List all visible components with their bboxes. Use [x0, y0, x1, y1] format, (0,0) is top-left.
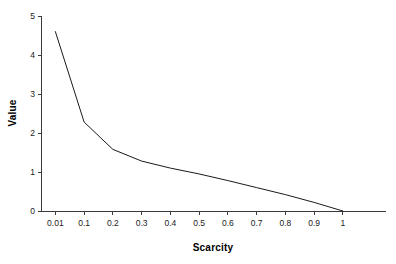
axis-lines: [41, 16, 386, 211]
x-axis-ticks: [55, 211, 343, 215]
x-axis-tick-label: 0.2: [107, 219, 119, 228]
x-axis-tick-label: 1: [341, 219, 346, 228]
data-series-line: [55, 32, 343, 211]
y-axis-tick-label: 5: [30, 12, 35, 21]
chart-container: 012345 0.010.10.20.30.40.50.60.70.80.91 …: [0, 0, 396, 264]
y-axis-tick-label: 1: [30, 168, 35, 177]
x-axis-tick-label: 0.01: [47, 219, 64, 228]
x-axis-tick-label: 0.6: [222, 219, 234, 228]
x-axis-tick-label: 0.9: [308, 219, 320, 228]
x-axis-tick-label: 0.8: [279, 219, 291, 228]
y-axis-tick-label: 0: [30, 207, 35, 216]
y-axis-title: Value: [8, 99, 18, 126]
x-axis-tick-label: 0.7: [251, 219, 263, 228]
x-axis-tick-label: 0.5: [193, 219, 205, 228]
x-axis-tick-label: 0.4: [164, 219, 176, 228]
y-axis-tick-label: 2: [30, 129, 35, 138]
y-axis-tick-label: 3: [30, 90, 35, 99]
x-axis-tick-label: 0.3: [136, 219, 148, 228]
x-axis-tick-label: 0.1: [78, 219, 90, 228]
x-axis-title: Scarcity: [193, 243, 234, 253]
y-axis-tick-label: 4: [30, 51, 35, 60]
